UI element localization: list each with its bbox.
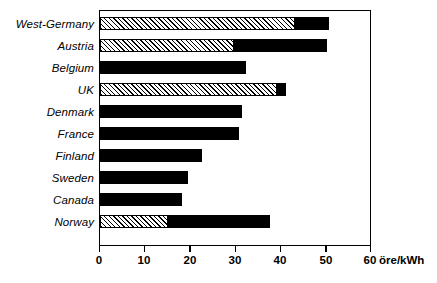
bar-segment-hatched [100,39,234,52]
x-tick-label-10: 10 [138,254,151,266]
x-axis-unit-label: öre/kWh [379,254,424,266]
x-tick-label-50: 50 [320,254,333,266]
bar-segment-hatched [100,215,168,228]
x-tick-label-60: 60 [364,254,377,266]
bar-segment-solid [100,127,239,140]
x-tick-60 [370,246,372,252]
category-label-belgium: Belgium [52,62,94,75]
x-tick-label-40: 40 [274,254,287,266]
bar-segment-solid [295,17,329,30]
plot-area [99,10,371,246]
category-label-canada: Canada [53,194,94,207]
category-label-norway: Norway [54,216,94,229]
x-tick-label-30: 30 [229,254,242,266]
x-tick-40 [280,246,282,252]
category-label-finland: Finland [56,150,94,163]
bar-segment-solid [100,105,242,118]
x-tick-label-0: 0 [96,254,102,266]
bar-segment-solid [277,83,286,96]
category-label-austria: Austria [58,40,95,53]
bar-segment-solid [100,61,246,74]
category-label-sweden: Sweden [52,172,94,185]
category-label-uk: UK [78,84,94,97]
category-label-west-germany: West-Germany [16,18,94,31]
bar-segment-hatched [100,17,295,30]
bar-segment-solid [100,193,182,206]
x-tick-50 [325,246,327,252]
bar-chart: West-Germany Austria Belgium UK Denmark … [0,0,437,283]
x-tick-30 [235,246,237,252]
x-tick-label-20: 20 [184,254,197,266]
x-tick-10 [144,246,146,252]
bar-segment-solid [100,149,202,162]
x-tick-20 [189,246,191,252]
bar-segment-hatched [100,83,277,96]
category-label-france: France [58,128,94,141]
bar-segment-solid [234,39,327,52]
bar-segment-solid [100,171,188,184]
x-tick-0 [99,246,101,252]
category-label-denmark: Denmark [47,106,94,119]
bar-segment-solid [168,215,270,228]
